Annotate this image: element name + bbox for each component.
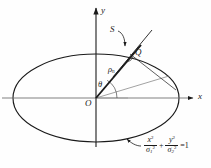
term1-numerator: x2	[145, 136, 155, 145]
term2-denominator: σ22	[165, 145, 178, 156]
x-axis-label: x	[198, 92, 202, 101]
radius-label-rho-n: ρn	[108, 65, 115, 75]
point-label-q: Q	[135, 48, 142, 57]
term1-den-exponent: 2	[152, 145, 154, 150]
term2-num-exponent: 2	[172, 135, 174, 140]
y-axis-label: y	[101, 6, 105, 15]
term1-denominator: σ12	[144, 145, 157, 156]
q-to-rim-line	[130, 54, 176, 90]
equation-callout-arrow	[127, 139, 141, 146]
equation-right-hand-side: =1	[180, 141, 189, 150]
tangent-label-s: S	[110, 25, 115, 34]
rho-subscript: n	[112, 68, 115, 74]
term1-num-exponent: 2	[151, 135, 153, 140]
equation-term-2: y2 σ22	[165, 136, 178, 155]
equation-operator: +	[159, 141, 164, 150]
figure-canvas: x y O S Q ρn θ x2 σ12 + y2 σ22 =1	[0, 0, 211, 168]
equation-term-1: x2 σ12	[144, 136, 157, 155]
tangent-line-s	[113, 30, 152, 77]
term2-numerator: y2	[167, 136, 177, 145]
term2-den-exponent: 2	[174, 145, 176, 150]
ellipse-equation: x2 σ12 + y2 σ22 =1	[143, 136, 189, 155]
secondary-ray	[96, 76, 169, 98]
origin-label: O	[85, 99, 92, 108]
s-callout-arrow	[118, 31, 125, 46]
angle-label-theta: θ	[98, 80, 102, 89]
